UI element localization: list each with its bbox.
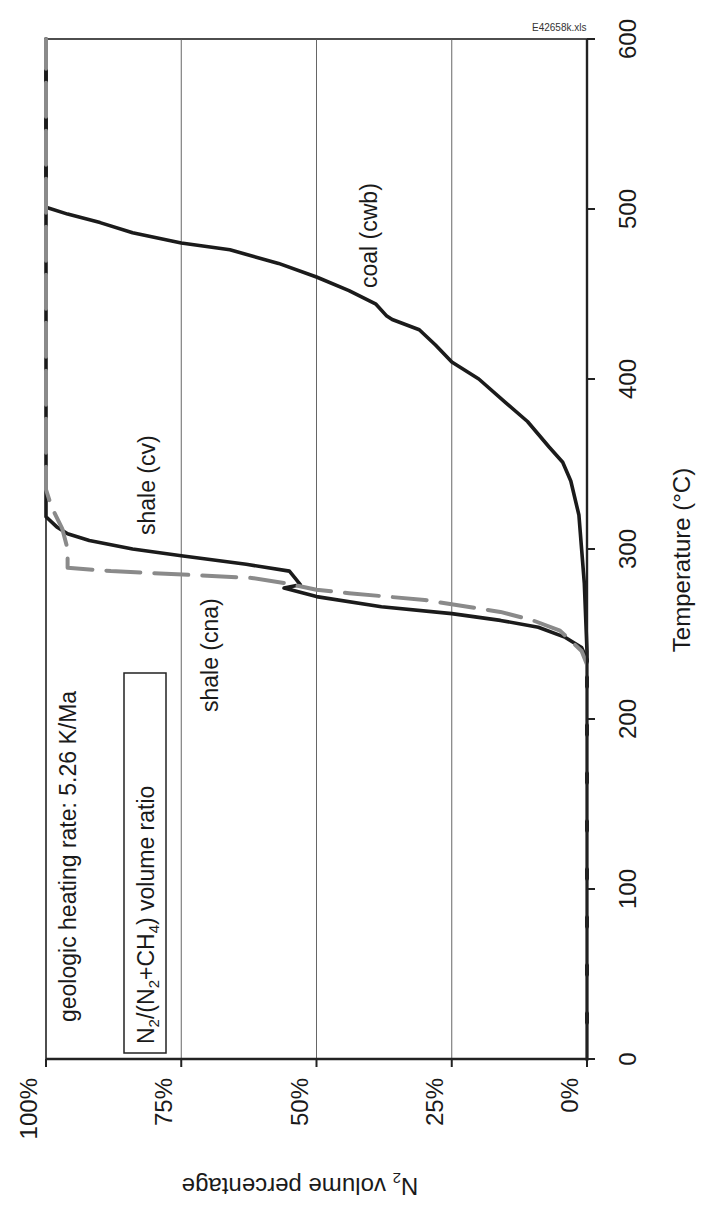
y-tick-label: 25% [421, 1078, 448, 1126]
y-axis-title-main: N [401, 1173, 418, 1200]
series-label-shale-cv: shale (cv) [134, 435, 160, 535]
file-label: E42658k.xls [532, 22, 586, 33]
y-axis-title: N2 volume percentage [182, 1170, 418, 1200]
y-axis-title-sub: 2 [393, 1170, 401, 1187]
y-tick-label: 100% [15, 1078, 42, 1139]
x-tick-label: 300 [614, 529, 641, 569]
y-tick-labels: 0%25%50%75%100% [15, 1078, 583, 1139]
y-tick-label: 75% [150, 1078, 177, 1126]
x-tick-label: 100 [614, 869, 641, 909]
x-tick-label: 400 [614, 359, 641, 399]
gridlines [181, 39, 452, 1059]
x-tick-label: 600 [614, 19, 641, 59]
y-tick-label: 50% [286, 1078, 313, 1126]
x-axis-title: Temperature (°C) [668, 468, 695, 652]
chart-figure: E42658k.xls 0100200300400500600 0%25%50%… [0, 0, 717, 1228]
x-tick-labels: 0100200300400500600 [614, 19, 641, 1066]
y-tick-label: 0% [556, 1078, 583, 1113]
ratio-box-text: N2/(N2+CH4) volume ratio [133, 786, 162, 1044]
series-label-shale-cna: shale (cna) [197, 598, 223, 712]
ratio-legend-box: N2/(N2+CH4) volume ratio [124, 673, 166, 1053]
x-tick-label: 500 [614, 189, 641, 229]
heating-rate-annotation: geologic heating rate: 5.26 K/Ma [55, 691, 81, 1022]
y-axis-title-rest: volume percentage [182, 1173, 393, 1200]
x-tick-label: 200 [614, 699, 641, 739]
x-tick-label: 0 [614, 1052, 641, 1065]
series-label-coal: coal (cwb) [356, 183, 382, 288]
